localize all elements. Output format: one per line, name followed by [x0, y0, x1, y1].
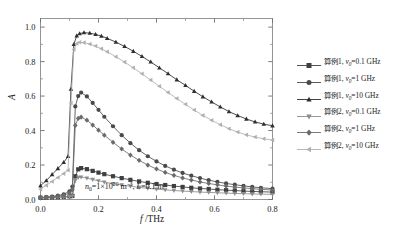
series-marker — [96, 171, 100, 175]
legend-item[interactable]: 算例2, ν0=1 GHz — [296, 123, 381, 137]
x-tick-label: 0.0 — [35, 205, 45, 214]
series-marker — [253, 135, 257, 140]
series-marker — [206, 181, 211, 186]
legend-item[interactable]: 算例1, ν0=1 GHz — [296, 73, 381, 87]
series-marker — [198, 179, 203, 184]
series-marker — [137, 148, 141, 152]
series-marker — [73, 104, 77, 108]
x-tick-label: 0.6 — [209, 205, 219, 214]
series-marker — [91, 169, 95, 173]
legend-label: 算例2, ν0=1 GHz — [322, 123, 375, 137]
legend-item[interactable]: 算例1, ν0=0.1 GHz — [296, 56, 381, 70]
series-marker — [163, 164, 167, 168]
legend-marker-icon — [296, 124, 322, 135]
series-marker — [131, 49, 136, 53]
series-marker — [172, 168, 176, 172]
series-marker — [85, 94, 89, 98]
series-group — [38, 30, 275, 200]
series-marker — [227, 109, 232, 113]
series-marker — [82, 30, 87, 34]
series-marker — [157, 65, 162, 69]
legend-label: 算例1, ν0=0.1 GHz — [322, 56, 381, 70]
series-marker — [218, 105, 223, 109]
plot-annotation: n0=1×1020 m−3, L=0.1 m — [85, 181, 164, 192]
series-marker — [181, 171, 185, 175]
chart-legend: 算例1, ν0=0.1 GHz算例1, ν0=1 GHz算例1, ν0=10 G… — [296, 56, 381, 154]
series-marker — [218, 122, 222, 127]
series-marker — [105, 50, 109, 55]
series-marker — [66, 154, 71, 158]
y-axis-label: A — [7, 94, 17, 100]
series-marker — [96, 108, 100, 112]
y-tick-label: 0.8 — [25, 58, 35, 67]
series-marker — [140, 54, 145, 58]
series-marker — [137, 158, 142, 163]
series-marker — [91, 101, 95, 105]
legend-item[interactable]: 算例2, ν0=10 GHz — [296, 140, 381, 154]
series-marker — [87, 42, 91, 47]
series-marker — [180, 175, 185, 180]
series-marker — [172, 184, 176, 188]
series-marker — [69, 87, 74, 91]
series-marker — [85, 167, 89, 171]
series-marker — [120, 176, 124, 180]
series-marker — [113, 55, 117, 60]
series-marker — [181, 185, 185, 189]
series-marker — [93, 44, 97, 49]
series-marker — [102, 115, 106, 119]
series-marker — [209, 100, 214, 104]
series-marker — [82, 40, 86, 45]
legend-marker-icon — [296, 108, 322, 119]
series-marker — [189, 177, 194, 182]
series-marker — [201, 94, 206, 98]
series-marker — [128, 152, 133, 157]
series-marker — [119, 146, 124, 151]
series-marker — [73, 179, 78, 183]
series-marker — [183, 83, 188, 87]
series-marker — [128, 141, 132, 145]
series-marker — [154, 166, 159, 171]
y-tick-label: 0.4 — [25, 127, 36, 136]
series-marker — [111, 124, 115, 128]
series-marker — [209, 118, 213, 123]
legend-marker-icon — [296, 57, 322, 68]
series-marker — [192, 89, 197, 93]
series-marker — [79, 166, 83, 170]
series-marker — [146, 154, 150, 158]
y-tick-label: 1.0 — [25, 23, 35, 32]
absorption-spectrum-figure: 0.00.20.40.60.80.00.20.40.60.81.0 算例1, ν… — [0, 0, 408, 240]
series-marker — [198, 186, 202, 190]
series-marker — [163, 170, 168, 175]
series-marker — [76, 94, 80, 98]
series-marker — [148, 60, 153, 64]
series-marker — [189, 174, 193, 178]
x-tick-label: 0.4 — [151, 205, 162, 214]
legend-marker-icon — [296, 74, 322, 85]
legend-label: 算例1, ν0=1 GHz — [322, 73, 375, 87]
series-marker — [189, 186, 193, 190]
x-tick-label: 0.2 — [93, 205, 103, 214]
series-marker — [207, 187, 211, 191]
series-marker — [73, 123, 78, 128]
legend-label: 算例2, ν0=10 GHz — [322, 140, 379, 154]
series-marker — [154, 159, 158, 163]
series-marker — [166, 71, 171, 75]
series-marker — [261, 137, 265, 142]
legend-item[interactable]: 算例2, ν0=0.1 GHz — [296, 106, 381, 120]
series-marker — [111, 174, 115, 178]
series-marker — [227, 126, 231, 131]
series-marker — [79, 91, 83, 95]
series-marker — [99, 46, 103, 51]
series-marker — [175, 77, 180, 81]
series-marker — [145, 162, 150, 167]
y-tick-label: 0.2 — [25, 161, 35, 170]
legend-marker-icon — [296, 141, 322, 152]
legend-item[interactable]: 算例1, ν0=10 GHz — [296, 90, 381, 104]
y-tick-label: 0.0 — [25, 196, 35, 205]
series-marker — [120, 133, 124, 137]
series-marker — [244, 133, 248, 138]
series-marker — [172, 173, 177, 178]
legend-marker-icon — [296, 91, 322, 102]
series-marker — [102, 172, 106, 176]
legend-label: 算例1, ν0=10 GHz — [322, 90, 379, 104]
